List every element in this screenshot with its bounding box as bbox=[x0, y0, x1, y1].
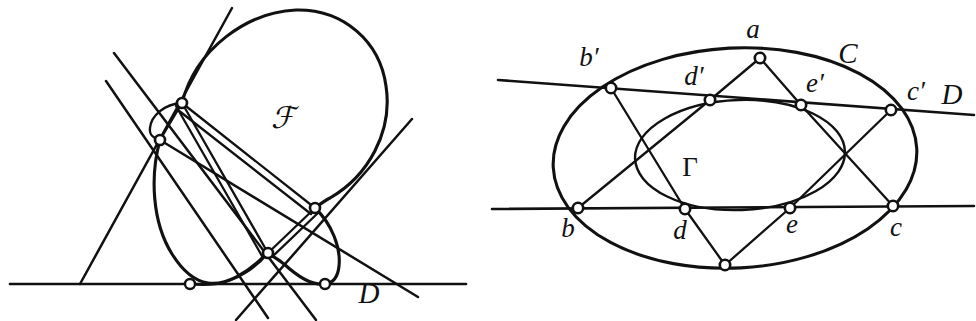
node-c-prime bbox=[886, 105, 896, 115]
secant-line-upper bbox=[498, 80, 974, 115]
chord-a-dprime bbox=[710, 58, 760, 100]
inner-conic-gamma bbox=[633, 96, 847, 213]
node-b bbox=[573, 203, 583, 213]
chord-upper-to-lowermid-a bbox=[182, 103, 268, 253]
chord-e-apex bbox=[725, 208, 790, 265]
left-figure: ℱ D bbox=[0, 0, 488, 321]
node-on-line-right bbox=[320, 279, 330, 289]
node-c bbox=[888, 201, 898, 211]
label-point-b: b bbox=[561, 213, 575, 243]
outer-conic-C bbox=[547, 39, 922, 278]
label-curve-F: ℱ bbox=[271, 100, 300, 135]
chord-d-apex bbox=[685, 209, 725, 265]
chord-bprime-d bbox=[611, 88, 685, 209]
chord-e-cprime bbox=[790, 110, 891, 208]
label-point-a: a bbox=[746, 14, 760, 44]
label-line-D: D bbox=[941, 78, 963, 110]
chord-upper-to-lowermid-b bbox=[176, 106, 262, 256]
chord-a-eprime bbox=[760, 58, 801, 105]
node-upper-left bbox=[155, 135, 165, 145]
label-point-e: e bbox=[786, 209, 798, 239]
node-d bbox=[680, 204, 690, 214]
label-point-d-prime: d′ bbox=[684, 61, 705, 91]
tangent-line-2 bbox=[114, 53, 316, 320]
label-conic-gamma: Γ bbox=[682, 152, 698, 182]
figure-page: ℱ D a C b′ d′ bbox=[0, 0, 976, 321]
curve-F-left-lobe bbox=[154, 140, 268, 283]
tangent-line-1 bbox=[80, 8, 232, 284]
secant-line-lower bbox=[492, 206, 974, 209]
node-b-prime bbox=[606, 83, 616, 93]
node-lower-mid bbox=[263, 248, 273, 258]
label-point-c: c bbox=[890, 212, 902, 242]
node-d-prime bbox=[705, 95, 715, 105]
label-point-d: d bbox=[673, 215, 687, 245]
node-on-line-left bbox=[185, 279, 195, 289]
label-point-e-prime: e′ bbox=[806, 68, 825, 98]
label-conic-C: C bbox=[838, 37, 858, 69]
node-upper bbox=[177, 98, 187, 108]
label-line-D: D bbox=[358, 277, 380, 309]
right-figure: a C b′ d′ e′ c′ D Γ b d e c bbox=[488, 0, 976, 321]
node-a bbox=[755, 53, 765, 63]
chord-upper-to-right-a bbox=[182, 103, 315, 208]
node-e-prime bbox=[796, 100, 806, 110]
label-point-b-prime: b′ bbox=[579, 42, 600, 72]
node-bottom-apex bbox=[720, 260, 730, 270]
node-right bbox=[310, 203, 320, 213]
label-point-c-prime: c′ bbox=[907, 76, 926, 106]
